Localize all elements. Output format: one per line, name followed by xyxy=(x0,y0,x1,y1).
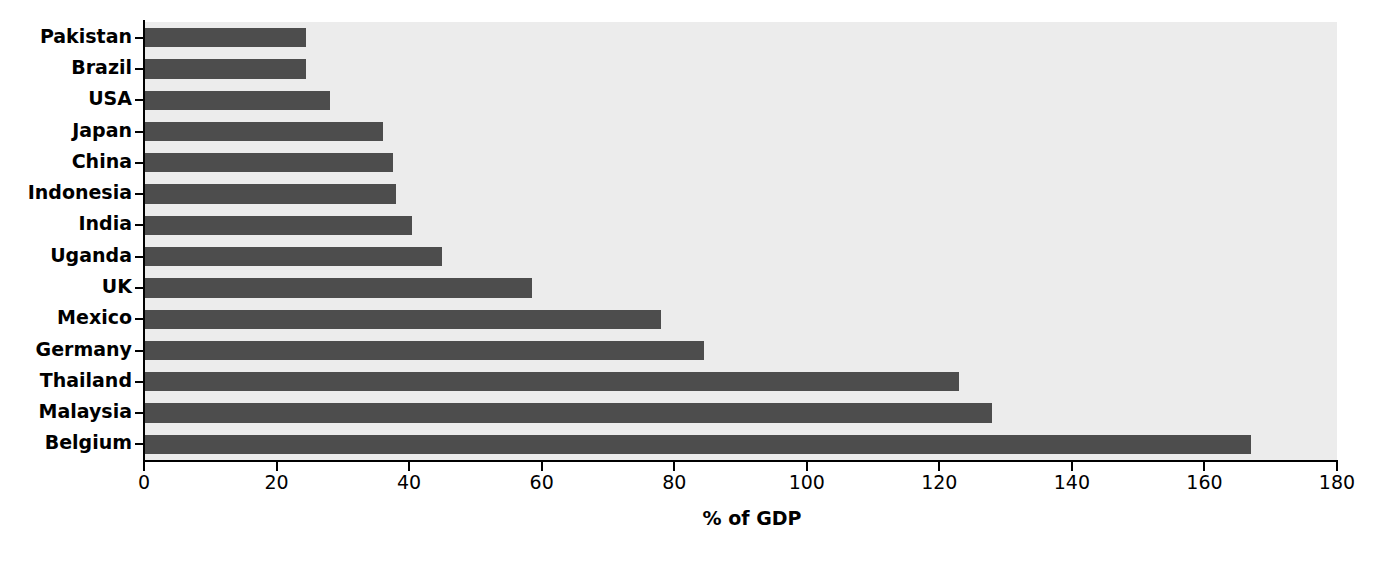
bar xyxy=(144,278,532,297)
x-axis-tick-label: 80 xyxy=(662,473,686,492)
y-axis-label-indonesia: Indonesia xyxy=(28,183,132,202)
x-axis-tick xyxy=(1336,462,1338,471)
y-axis-label-india: India xyxy=(78,214,132,233)
x-axis-tick xyxy=(938,462,940,471)
y-axis-tick xyxy=(135,381,144,383)
y-axis-tick xyxy=(135,350,144,352)
bar xyxy=(144,372,959,391)
y-axis-label-usa: USA xyxy=(88,89,132,108)
y-axis-tick xyxy=(135,287,144,289)
bar xyxy=(144,59,306,78)
bar xyxy=(144,216,412,235)
y-axis-tick xyxy=(135,443,144,445)
bar xyxy=(144,435,1251,454)
bar-chart: % of GDP PakistanBrazilUSAJapanChinaIndo… xyxy=(0,0,1384,566)
y-axis-tick xyxy=(135,256,144,258)
x-axis-line xyxy=(143,460,1338,462)
y-axis-label-japan: Japan xyxy=(72,121,132,140)
x-axis-tick xyxy=(1071,462,1073,471)
x-axis-tick-label: 20 xyxy=(264,473,288,492)
y-axis-label-china: China xyxy=(72,152,132,171)
y-axis-tick xyxy=(135,412,144,414)
x-axis-tick-label: 160 xyxy=(1186,473,1222,492)
x-axis-tick xyxy=(276,462,278,471)
x-axis-tick-label: 40 xyxy=(397,473,421,492)
x-axis-tick-label: 120 xyxy=(921,473,957,492)
bar xyxy=(144,184,396,203)
y-axis-line xyxy=(143,20,145,462)
y-axis-label-pakistan: Pakistan xyxy=(40,27,132,46)
x-axis-tick-label: 140 xyxy=(1054,473,1090,492)
y-axis-tick xyxy=(135,131,144,133)
y-axis-tick xyxy=(135,162,144,164)
x-axis-tick-label: 100 xyxy=(789,473,825,492)
y-axis-tick xyxy=(135,193,144,195)
bar xyxy=(144,341,704,360)
y-axis-label-brazil: Brazil xyxy=(71,58,132,77)
y-axis-label-malaysia: Malaysia xyxy=(38,402,132,421)
y-axis-tick xyxy=(135,37,144,39)
bar xyxy=(144,122,383,141)
x-axis-title-text: % of GDP xyxy=(703,507,802,529)
y-axis-tick xyxy=(135,99,144,101)
plot-area xyxy=(144,22,1337,460)
bar xyxy=(144,28,306,47)
y-axis-tick xyxy=(135,318,144,320)
x-axis-tick xyxy=(143,462,145,471)
x-axis-tick-label: 0 xyxy=(138,473,150,492)
bar xyxy=(144,91,330,110)
x-axis-tick xyxy=(408,462,410,471)
x-axis-title: % of GDP xyxy=(0,507,1384,529)
x-axis-tick xyxy=(541,462,543,471)
y-axis-label-belgium: Belgium xyxy=(45,433,132,452)
x-axis-tick xyxy=(806,462,808,471)
y-axis-tick xyxy=(135,68,144,70)
bar xyxy=(144,153,393,172)
bar xyxy=(144,247,442,266)
bar xyxy=(144,403,992,422)
y-axis-label-germany: Germany xyxy=(36,340,132,359)
y-axis-label-uganda: Uganda xyxy=(50,246,132,265)
x-axis-tick xyxy=(1203,462,1205,471)
x-axis-tick-label: 60 xyxy=(530,473,554,492)
x-axis-tick xyxy=(673,462,675,471)
y-axis-label-uk: UK xyxy=(102,277,132,296)
bar xyxy=(144,310,661,329)
x-axis-tick-label: 180 xyxy=(1319,473,1355,492)
y-axis-label-mexico: Mexico xyxy=(57,308,132,327)
y-axis-tick xyxy=(135,224,144,226)
y-axis-label-thailand: Thailand xyxy=(40,371,132,390)
